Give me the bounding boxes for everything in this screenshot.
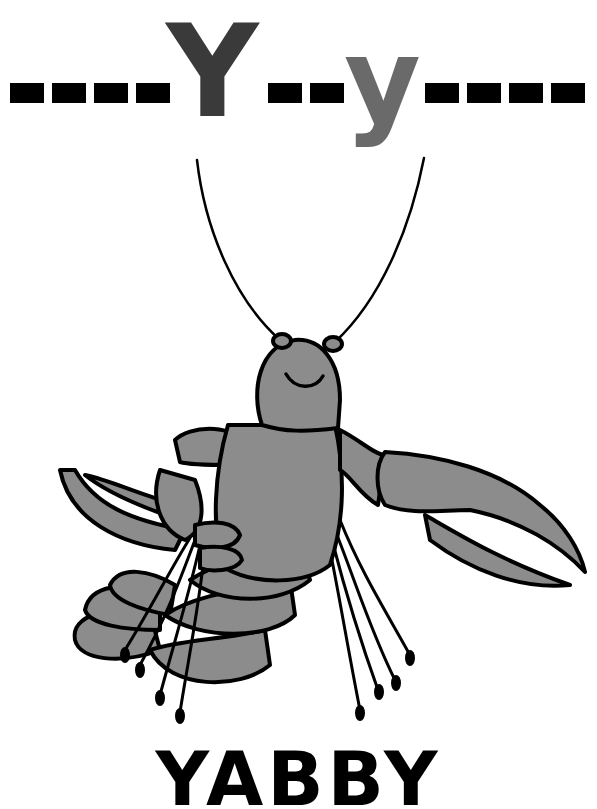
card-word: YABBY bbox=[0, 742, 597, 809]
uppercase-letter: Y bbox=[166, 8, 259, 136]
dash bbox=[52, 83, 86, 103]
dash bbox=[310, 83, 344, 103]
yabby-illustration bbox=[0, 150, 597, 730]
lowercase-letter: y bbox=[344, 22, 421, 140]
dash bbox=[509, 83, 543, 103]
dash bbox=[136, 83, 170, 103]
antenna-right bbox=[335, 158, 424, 342]
antenna-left bbox=[197, 160, 280, 340]
dash bbox=[467, 83, 501, 103]
dash bbox=[551, 83, 585, 103]
dash bbox=[425, 83, 459, 103]
abdomen-segment bbox=[150, 630, 270, 682]
eye-left bbox=[273, 334, 291, 348]
letter-header: Y y bbox=[0, 0, 597, 160]
dash bbox=[268, 83, 302, 103]
dash bbox=[10, 83, 44, 103]
eye-right bbox=[324, 337, 342, 351]
dash bbox=[94, 83, 128, 103]
